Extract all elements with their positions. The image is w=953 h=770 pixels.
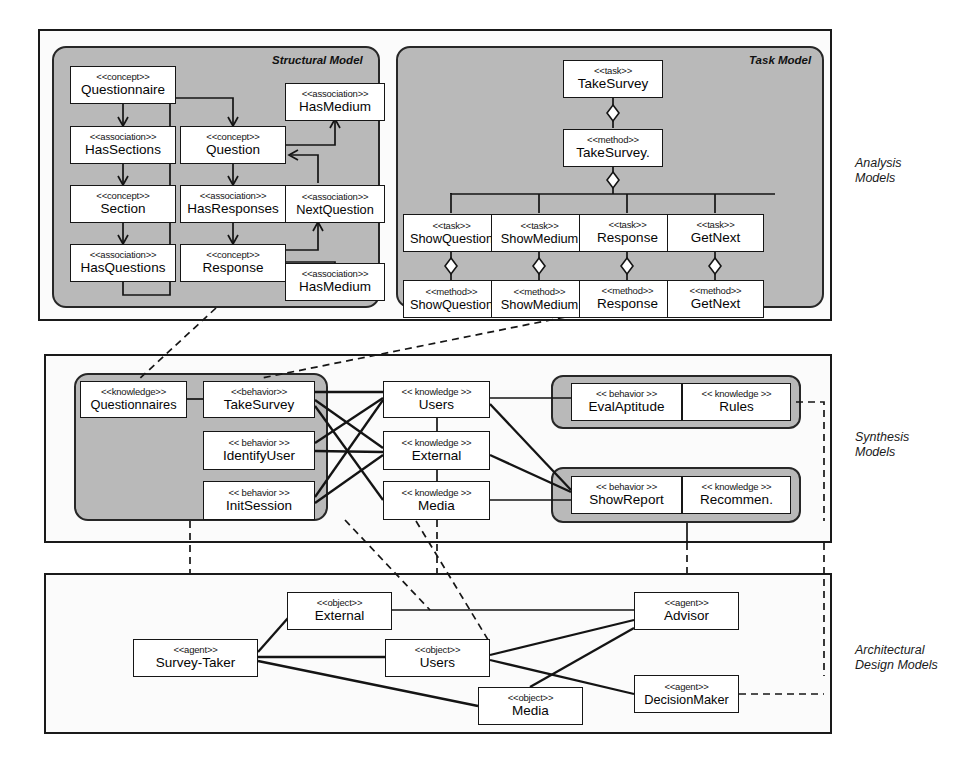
- task-model-title: Task Model: [749, 54, 811, 66]
- node-stereotype: <<object>>: [317, 598, 363, 608]
- node-method-showmedium[interactable]: <<method>> ShowMedium: [491, 280, 588, 318]
- node-stereotype: <<association>>: [90, 250, 157, 260]
- node-label: Media: [418, 499, 455, 513]
- node-label: External: [315, 609, 365, 623]
- node-label: NextQuestion: [296, 203, 374, 216]
- node-task-response[interactable]: <<task>> Response: [579, 214, 676, 252]
- node-response[interactable]: <<concept>> Response: [180, 244, 286, 282]
- node-stereotype: <<association>>: [302, 89, 369, 99]
- node-stereotype: <<method>>: [602, 286, 654, 296]
- node-label: Advisor: [664, 609, 709, 623]
- node-label: Response: [203, 261, 264, 275]
- node-label: ShowReport: [589, 493, 663, 507]
- node-section[interactable]: <<concept>> Section: [70, 185, 176, 223]
- node-label: Questionnaires: [90, 398, 176, 411]
- node-label: Question: [206, 143, 260, 157]
- node-behavior-evalaptitude[interactable]: << behavior >> EvalAptitude: [571, 383, 682, 421]
- node-object-external[interactable]: <<object>> External: [287, 592, 392, 630]
- node-stereotype: <<task>>: [608, 220, 646, 230]
- node-object-media[interactable]: <<object>> Media: [478, 687, 583, 725]
- node-stereotype: <<association>>: [90, 132, 157, 142]
- node-knowledge-questionnaires[interactable]: <<knowledge>> Questionnaires: [80, 381, 187, 418]
- node-behavior-identifyuser[interactable]: << behavior >> IdentifyUser: [203, 431, 315, 470]
- node-label: TakeSurvey: [224, 398, 295, 412]
- node-hassections[interactable]: <<association>> HasSections: [70, 126, 176, 164]
- node-stereotype: <<task>>: [432, 221, 470, 231]
- node-stereotype: <<method>>: [514, 287, 566, 297]
- node-method-response[interactable]: <<method>> Response: [579, 280, 676, 318]
- node-label: Response: [597, 297, 658, 311]
- node-hasquestions[interactable]: <<association>> HasQuestions: [70, 244, 176, 282]
- node-label: TakeSurvey: [578, 77, 649, 91]
- node-stereotype: <<association>>: [302, 192, 369, 202]
- node-stereotype: <<object>>: [415, 645, 461, 655]
- node-behavior-showreport[interactable]: << behavior >> ShowReport: [571, 476, 682, 514]
- node-label: HasSections: [85, 143, 161, 157]
- node-label: HasQuestions: [81, 261, 166, 275]
- node-stereotype: <<agent>>: [173, 645, 217, 655]
- node-task-getnext[interactable]: <<task>> GetNext: [667, 214, 764, 252]
- node-task-showquestion[interactable]: <<task>> ShowQuestion: [403, 214, 500, 252]
- node-stereotype: << knowledge >>: [702, 389, 772, 399]
- node-stereotype: << knowledge >>: [402, 438, 472, 448]
- node-method-showquestion[interactable]: <<method>> ShowQuestion: [403, 280, 500, 318]
- node-stereotype: <<concept>>: [206, 250, 259, 260]
- node-stereotype: <<method>>: [426, 287, 478, 297]
- node-behavior-takesurvey[interactable]: <<behavior>> TakeSurvey: [203, 381, 315, 418]
- node-question[interactable]: <<concept>> Question: [180, 126, 286, 164]
- node-stereotype: <<agent>>: [664, 682, 708, 692]
- node-label: TakeSurvey.: [576, 146, 649, 160]
- node-behavior-initsession[interactable]: << behavior >> InitSession: [203, 481, 315, 520]
- node-label: Questionnaire: [81, 83, 165, 97]
- node-label: IdentifyUser: [223, 449, 295, 463]
- node-task-showmedium[interactable]: <<task>> ShowMedium: [491, 214, 588, 252]
- node-agent-decisionmaker[interactable]: <<agent>> DecisionMaker: [634, 675, 739, 713]
- node-label: HasResponses: [187, 202, 279, 216]
- node-stereotype: << behavior >>: [228, 488, 289, 498]
- node-method-getnext[interactable]: <<method>> GetNext: [667, 280, 764, 318]
- node-stereotype: << behavior >>: [596, 482, 657, 492]
- node-method-takesurvey[interactable]: <<method>> TakeSurvey.: [563, 129, 663, 167]
- node-knowledge-users[interactable]: << knowledge >> Users: [383, 381, 490, 418]
- node-nextquestion[interactable]: <<association>> NextQuestion: [285, 185, 385, 223]
- node-stereotype: << knowledge >>: [702, 482, 772, 492]
- node-label: ShowMedium: [501, 298, 579, 311]
- node-label: HasMedium: [299, 280, 371, 294]
- node-knowledge-media[interactable]: << knowledge >> Media: [383, 481, 490, 520]
- node-label: HasMedium: [299, 100, 371, 114]
- node-label: Users: [420, 656, 455, 670]
- node-label: GetNext: [691, 231, 741, 245]
- node-label: Recommen.: [700, 493, 773, 507]
- structural-model-title: Structural Model: [272, 54, 363, 66]
- node-hasmedium-top[interactable]: <<association>> HasMedium: [285, 83, 385, 121]
- architectural-models-caption: Architectural Design Models: [855, 643, 938, 673]
- node-stereotype: <<concept>>: [206, 132, 259, 142]
- node-knowledge-recommen[interactable]: << knowledge >> Recommen.: [682, 476, 791, 514]
- node-hasresponses[interactable]: <<association>> HasResponses: [180, 185, 286, 223]
- node-label: ShowQuestion: [410, 298, 493, 311]
- node-stereotype: << behavior >>: [596, 389, 657, 399]
- node-label: Section: [100, 202, 145, 216]
- node-stereotype: << behavior >>: [228, 438, 289, 448]
- node-stereotype: << knowledge >>: [402, 488, 472, 498]
- node-stereotype: <<agent>>: [664, 598, 708, 608]
- node-stereotype: <<method>>: [690, 286, 742, 296]
- node-knowledge-external[interactable]: << knowledge >> External: [383, 431, 490, 470]
- node-knowledge-rules[interactable]: << knowledge >> Rules: [682, 383, 791, 421]
- node-stereotype: <<knowledge>>: [101, 387, 166, 397]
- node-stereotype: <<association>>: [302, 269, 369, 279]
- node-questionnaire[interactable]: <<concept>> Questionnaire: [70, 66, 176, 104]
- node-label: ShowQuestion: [410, 232, 493, 245]
- node-stereotype: <<task>>: [594, 66, 632, 76]
- node-label: InitSession: [226, 499, 292, 513]
- node-label: ShowMedium: [501, 232, 579, 245]
- node-label: GetNext: [691, 297, 741, 311]
- node-stereotype: <<behavior>>: [231, 387, 287, 397]
- node-hasmedium-bottom[interactable]: <<association>> HasMedium: [285, 263, 385, 301]
- node-agent-advisor[interactable]: <<agent>> Advisor: [634, 592, 739, 630]
- node-object-users[interactable]: <<object>> Users: [385, 639, 490, 677]
- node-task-takesurvey[interactable]: <<task>> TakeSurvey: [563, 60, 663, 98]
- node-stereotype: << knowledge >>: [402, 387, 472, 397]
- node-stereotype: <<concept>>: [96, 72, 149, 82]
- node-agent-survey-taker[interactable]: <<agent>> Survey-Taker: [133, 639, 258, 677]
